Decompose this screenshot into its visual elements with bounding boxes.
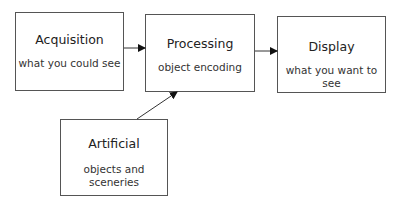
artificial-title: Artificial xyxy=(61,136,167,151)
processing-node: Processing object encoding xyxy=(145,14,255,92)
acquisition-title: Acquisition xyxy=(16,32,123,47)
display-subtitle: what you want to see xyxy=(278,64,385,90)
processing-title: Processing xyxy=(146,36,254,51)
edge-artificial-to-processing xyxy=(137,92,177,119)
acquisition-node: Acquisition what you could see xyxy=(15,12,124,91)
display-title: Display xyxy=(278,39,385,54)
artificial-subtitle: objects and sceneries xyxy=(61,163,167,189)
acquisition-subtitle: what you could see xyxy=(16,57,123,70)
display-node: Display what you want to see xyxy=(277,16,386,93)
artificial-node: Artificial objects and sceneries xyxy=(60,119,168,196)
processing-subtitle: object encoding xyxy=(146,61,254,74)
